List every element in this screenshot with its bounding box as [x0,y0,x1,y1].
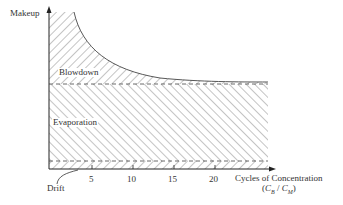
x-tick-label-5: 5 [89,175,94,184]
x-axis-sep: / [275,183,282,193]
blowdown-label: Blowdown [58,68,100,77]
x-axis-arrow-icon [269,167,276,172]
drift-label: Drift [47,184,65,193]
drift-region [49,161,268,169]
y-axis-arrow-icon [47,6,52,13]
x-tick-label-10: 10 [127,175,136,184]
drift-leader-line [57,170,78,184]
y-axis-label: Makeup [10,9,40,18]
x-axis-label: Cycles of Concentration [235,174,322,183]
evaporation-label: Evaporation [52,118,98,127]
x-tick-label-15: 15 [168,175,177,184]
x-tick-label-20: 20 [209,175,218,184]
x-axis-sublabel: (CB / CM) [262,184,296,195]
x-axis-paren-close: ) [293,183,296,193]
